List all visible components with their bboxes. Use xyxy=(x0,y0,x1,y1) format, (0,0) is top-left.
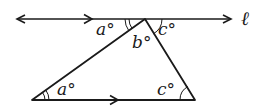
arc-bottom-left-1 xyxy=(43,92,46,100)
label-bottom-right-angle: c° xyxy=(157,79,175,99)
label-bottom-left-angle: a° xyxy=(57,79,76,99)
triangle-diagram: a° b° c° a° c° ℓ xyxy=(0,0,263,111)
arc-bottom-left-2 xyxy=(46,90,49,100)
label-top-middle-angle: b° xyxy=(132,32,151,52)
label-top-right-angle: c° xyxy=(158,19,176,39)
arc-top-left-1 xyxy=(129,19,132,28)
label-top-left-angle: a° xyxy=(96,19,115,39)
label-line-l: ℓ xyxy=(241,7,249,29)
diagram-canvas: a° b° c° a° c° ℓ xyxy=(0,0,263,111)
arc-top-left-2 xyxy=(125,19,129,31)
line-l xyxy=(17,15,231,24)
arc-bottom-right xyxy=(180,87,188,101)
